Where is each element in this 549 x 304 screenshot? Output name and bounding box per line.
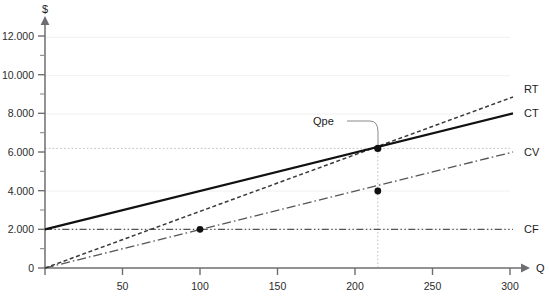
x-tick-label: 100: [191, 280, 209, 292]
x-tick-label: 300: [501, 280, 519, 292]
y-tick-label: 0: [28, 262, 34, 274]
data-point-break-even: [374, 145, 381, 152]
y-tick-label: 12.000: [2, 30, 34, 42]
y-tick-label: 2.000: [8, 223, 34, 235]
series-label-rt: RT: [524, 83, 539, 95]
y-tick-label: 10.000: [2, 69, 34, 81]
y-tick-label: 8.000: [8, 107, 34, 119]
series-label-cv: CV: [524, 146, 540, 158]
y-axis-title: $: [42, 3, 48, 15]
x-tick-label: 150: [269, 280, 287, 292]
x-tick-label: 200: [346, 280, 364, 292]
annotation-label-qpe: Qpe: [313, 115, 334, 127]
x-tick-label: 50: [117, 280, 129, 292]
break-even-chart: $ 0 2.000 4.000 6.000 8.000 10.000: [0, 0, 549, 304]
series-label-cf: CF: [524, 223, 539, 235]
y-tick-label: 4.000: [8, 185, 34, 197]
series-label-ct: CT: [524, 107, 539, 119]
y-tick-label: 6.000: [8, 146, 34, 158]
data-point-cv-cf-crossing: [197, 226, 204, 233]
data-point-cv-at-break-even: [374, 188, 381, 195]
x-tick-label: 250: [424, 280, 442, 292]
x-axis-title: Q: [536, 262, 545, 274]
